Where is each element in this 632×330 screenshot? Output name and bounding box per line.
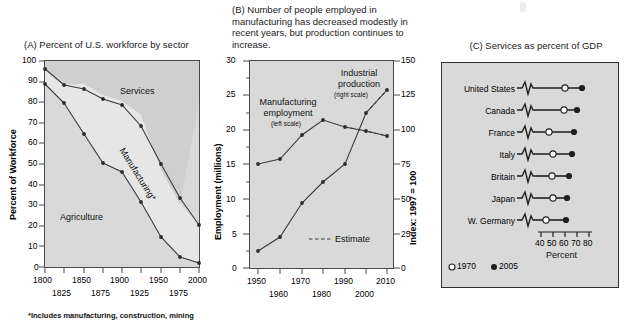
panel-a-footnote: *Includes manufacturing, construction, m… <box>28 311 194 320</box>
row-japan <box>517 192 570 204</box>
panel-a-xtick-1900: 1900 <box>110 275 129 285</box>
panel-b-xtick-1990: 1990 <box>334 276 353 286</box>
panel-c-xtick-50: 50 <box>547 238 556 248</box>
panel-b-xtick-1970: 1970 <box>291 276 310 286</box>
panel-b-xtick-2000: 2000 <box>355 289 374 299</box>
panel-c-legend-1970-label: 1970 <box>457 261 476 271</box>
row-france <box>517 126 577 138</box>
row-italy <box>517 148 575 160</box>
panel-c: (C) Services as percent of GDP United St… <box>410 0 632 330</box>
panel-b-label-employment: Manufacturing employment <box>253 97 323 118</box>
panel-a-xtick-1825: 1825 <box>52 288 71 298</box>
row-canada <box>517 104 580 116</box>
panel-b-label-production-scale: (right scale) <box>334 91 368 98</box>
panel-b-xtick-1960: 1960 <box>269 289 288 299</box>
panel-b-xtick-2010: 2010 <box>376 276 395 286</box>
panel-b: (B) Number of people employed in manufac… <box>205 0 415 330</box>
panel-b-ytick-right-0: 0 <box>401 263 406 273</box>
panel-a-label-agriculture: Agriculture <box>60 212 103 222</box>
panel-b-legend-estimate: Estimate <box>335 234 370 244</box>
panel-c-xtick-80: 80 <box>583 238 592 248</box>
panel-c-xtick-60: 60 <box>559 238 568 248</box>
panel-a-xtick-1950: 1950 <box>149 275 168 285</box>
panel-b-xtick-1980: 1980 <box>312 289 331 299</box>
panel-c-xlabel: Percent <box>546 250 577 260</box>
row-britain <box>517 170 572 182</box>
panel-a-xtick-1850: 1850 <box>72 275 91 285</box>
panel-c-xtick-40: 40 <box>535 238 544 248</box>
row-w-germany <box>517 214 569 226</box>
panel-a: (A) Percent of U.S. workforce by sector … <box>0 0 210 330</box>
panel-c-xtick-70: 70 <box>571 238 580 248</box>
panel-a-series-svg <box>0 0 210 330</box>
panel-a-xtick-1800: 1800 <box>33 275 52 285</box>
panel-b-xtick-1950: 1950 <box>247 276 266 286</box>
panel-c-legend-2005-label: 2005 <box>499 261 518 271</box>
panel-b-label-production: Industrial production <box>328 68 390 89</box>
panel-c-series-svg <box>410 0 632 330</box>
panel-a-xtick-1875: 1875 <box>91 288 110 298</box>
panel-b-label-employment-scale: (left scale) <box>271 120 301 127</box>
panel-a-label-services: Services <box>120 86 155 96</box>
panel-a-xtick-1975: 1975 <box>169 288 188 298</box>
row-united-states <box>517 82 585 94</box>
panel-a-xtick-1925: 1925 <box>130 288 149 298</box>
figure-root: (A) Percent of U.S. workforce by sector … <box>0 0 632 330</box>
